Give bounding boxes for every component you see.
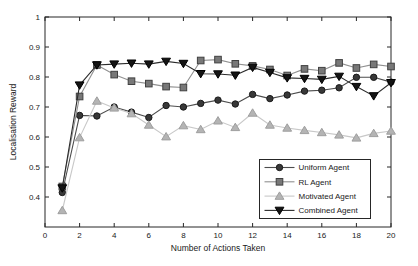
figure-canvas: 024681012141618200.40.50.60.70.80.91Numb… [0,0,418,266]
y-tick-label: 0.9 [29,43,41,52]
circle-marker [249,91,255,97]
circle-marker [232,101,238,107]
x-tick-label: 20 [387,231,396,240]
circle-marker [146,114,152,120]
legend-entry-combined-agent: Combined Agent [265,206,359,215]
circle-marker [198,100,204,106]
y-tick-label: 1 [36,13,41,22]
circle-marker [180,104,186,110]
y-axis-label: Localisation Reward [8,83,18,160]
square-marker [388,63,395,70]
x-axis-label: Number of Actions Taken [171,243,266,253]
square-marker [146,80,153,87]
circle-marker [319,87,325,93]
square-marker [180,84,187,91]
y-tick-label: 0.4 [29,193,41,202]
circle-marker [353,74,359,80]
circle-marker [276,164,282,170]
circle-marker [284,92,290,98]
square-marker [163,83,170,90]
square-marker [232,61,239,68]
x-tick-label: 16 [317,231,326,240]
x-tick-label: 6 [147,231,152,240]
circle-marker [215,97,221,103]
x-tick-label: 0 [43,231,48,240]
localisation-reward-line-chart: 024681012141618200.40.50.60.70.80.91Numb… [0,0,418,266]
y-tick-label: 0.5 [29,163,41,172]
y-tick-label: 0.6 [29,133,41,142]
square-marker [370,61,377,68]
legend-label: RL Agent [299,178,332,187]
legend-label: Uniform Agent [299,163,350,172]
legend-entry-motivated-agent: Motivated Agent [265,192,357,201]
circle-marker [301,88,307,94]
square-marker [319,67,326,74]
square-marker [215,56,222,63]
square-marker [336,60,343,67]
square-marker [128,78,135,85]
x-tick-label: 12 [248,231,257,240]
circle-marker [76,112,82,118]
legend-label: Motivated Agent [299,192,357,201]
x-tick-label: 14 [283,231,292,240]
x-tick-label: 4 [112,231,117,240]
y-tick-label: 0.7 [29,103,41,112]
x-tick-label: 10 [214,231,223,240]
circle-marker [267,95,273,101]
square-marker [111,71,118,78]
square-marker [353,65,360,72]
square-marker [197,57,204,64]
circle-marker [163,102,169,108]
circle-marker [371,74,377,80]
x-tick-label: 2 [77,231,82,240]
circle-marker [336,85,342,91]
circle-marker [94,113,100,119]
x-tick-label: 18 [352,231,361,240]
legend-label: Combined Agent [299,206,359,215]
square-marker [276,179,283,186]
legend: Uniform AgentRL AgentMotivated AgentComb… [260,160,371,219]
square-marker [301,66,308,73]
x-tick-label: 8 [181,231,186,240]
y-tick-label: 0.8 [29,73,41,82]
